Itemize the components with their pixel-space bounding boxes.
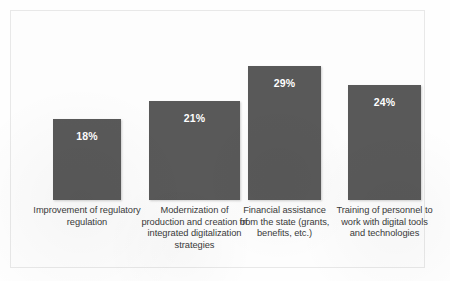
- bar-value-label: 18%: [53, 131, 121, 142]
- bar-value-label: 21%: [149, 113, 240, 124]
- plot-area: 18% Improvement of regulatory regulation…: [23, 23, 434, 277]
- bar-group-regulatory-regulation[interactable]: 18% Improvement of regulatory regulation: [53, 23, 121, 277]
- bar-group-training-of-personnel[interactable]: 24% Training of personnel to work with d…: [348, 23, 421, 277]
- category-axis-label: Training of personnel to work with digit…: [336, 205, 433, 240]
- category-axis-label: Modernization of production and creation…: [139, 205, 250, 251]
- chart-frame-border: 18% Improvement of regulatory regulation…: [10, 10, 425, 268]
- bar-value-label: 24%: [348, 97, 421, 108]
- bar-chart-figure: 18% Improvement of regulatory regulation…: [0, 0, 450, 281]
- category-axis-label: Improvement of regulatory regulation: [29, 205, 145, 228]
- bar-group-modernization-of-production[interactable]: 21% Modernization of production and crea…: [149, 23, 240, 277]
- bar-value-label: 29%: [248, 78, 321, 89]
- category-axis-label: Financial assistance from the state (gra…: [235, 205, 334, 240]
- bar-group-financial-assistance[interactable]: 29% Financial assistance from the state …: [248, 23, 321, 277]
